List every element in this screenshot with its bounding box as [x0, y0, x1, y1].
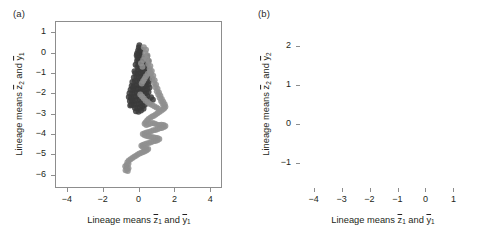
y-tick-mark: [51, 114, 55, 115]
x-tick-mark: [425, 188, 426, 192]
panel-b-label: (b): [258, 8, 270, 19]
panel-a-x-axis-title: Lineage means z1 and y1: [55, 216, 223, 226]
y-tick-label: −2: [15, 88, 46, 97]
x-tick-mark: [314, 188, 315, 192]
x-tick-label: 1: [437, 195, 469, 204]
x-tick-label: 0: [123, 195, 155, 204]
y-tick-mark: [51, 93, 55, 94]
x-tick-mark: [103, 188, 104, 192]
panel-a-plot-area: [55, 21, 222, 188]
x-tick-label: 2: [158, 195, 190, 204]
y-tick-label: −5: [15, 149, 46, 158]
y-tick-label: −1: [15, 68, 46, 77]
y-tick-label: −3: [15, 109, 46, 118]
panel-b-x-axis-title-prefix: Lineage means: [331, 215, 397, 225]
x-tick-mark: [210, 188, 211, 192]
figure-root: (a) Lineage means z2 and y1 Lineage mean…: [0, 0, 490, 238]
y-tick-mark: [296, 163, 300, 164]
y-tick-mark: [51, 134, 55, 135]
x-tick-label: −4: [51, 195, 83, 204]
x-tick-mark: [398, 188, 399, 192]
y-tick-mark: [296, 85, 300, 86]
y-tick-label: 1: [15, 27, 46, 36]
panel-a-label: (a): [13, 8, 25, 19]
y-tick-label: 2: [260, 41, 291, 50]
x-tick-mark: [453, 188, 454, 192]
panel-a-y-axis-title-prefix: Lineage means: [14, 89, 24, 155]
panel-b: (b) Lineage means z2 and y2 Lineage mean…: [245, 0, 490, 238]
panel-a-scatter-canvas: [56, 22, 221, 187]
panel-b-x-axis-title: Lineage means z1 and y1: [285, 216, 481, 226]
y-tick-label: 0: [260, 119, 291, 128]
x-tick-mark: [139, 188, 140, 192]
y-tick-mark: [51, 154, 55, 155]
x-tick-mark: [67, 188, 68, 192]
y-tick-label: −4: [15, 129, 46, 138]
y-tick-mark: [296, 124, 300, 125]
y-tick-label: −1: [260, 158, 291, 167]
panel-a: (a) Lineage means z2 and y1 Lineage mean…: [0, 0, 245, 238]
y-tick-mark: [51, 73, 55, 74]
x-tick-label: 4: [194, 195, 226, 204]
y-tick-label: 0: [15, 48, 46, 57]
y-tick-label: 1: [260, 80, 291, 89]
y-tick-mark: [51, 175, 55, 176]
x-tick-label: −2: [87, 195, 119, 204]
y-tick-mark: [51, 53, 55, 54]
panel-a-x-axis-title-prefix: Lineage means: [87, 215, 153, 225]
x-tick-mark: [174, 188, 175, 192]
y-tick-mark: [296, 46, 300, 47]
x-tick-mark: [370, 188, 371, 192]
y-tick-mark: [51, 32, 55, 33]
y-tick-label: −6: [15, 170, 46, 179]
x-tick-mark: [342, 188, 343, 192]
